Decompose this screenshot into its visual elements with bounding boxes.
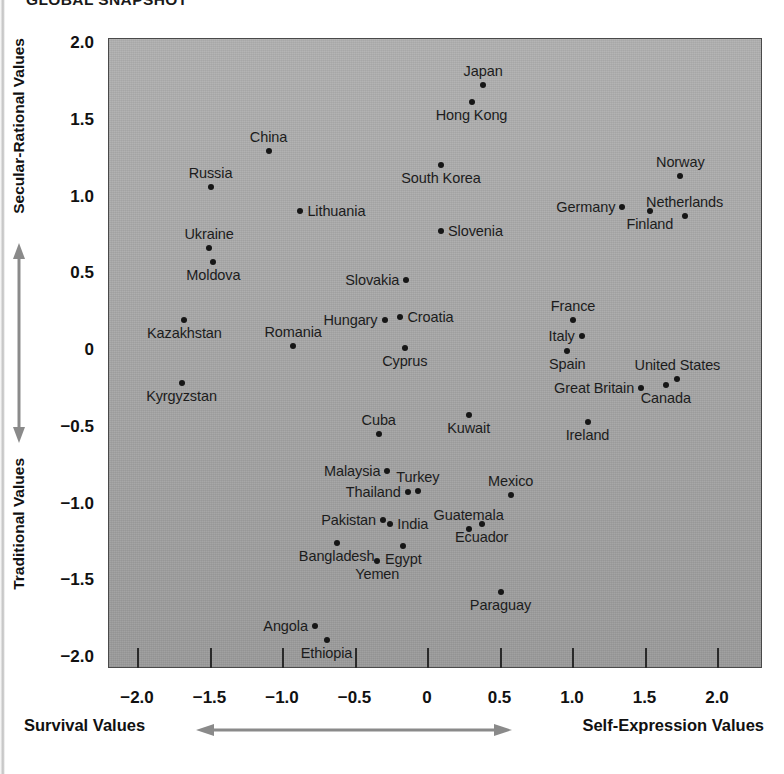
data-point[interactable] xyxy=(382,317,388,323)
data-point[interactable] xyxy=(181,317,187,323)
data-point[interactable] xyxy=(638,385,644,391)
data-point[interactable] xyxy=(334,540,340,546)
x-tick-mark xyxy=(282,648,284,668)
data-point-label: Guatemala xyxy=(434,507,504,523)
y-tick-label: 1.5 xyxy=(48,110,94,130)
data-point[interactable] xyxy=(579,333,585,339)
x-tick-mark xyxy=(572,648,574,668)
data-point[interactable] xyxy=(438,228,444,234)
x-tick-label: 1.0 xyxy=(560,688,584,708)
data-point-label: South Korea xyxy=(401,170,481,186)
data-point-label: Cyprus xyxy=(382,353,427,369)
data-point-label: Kazakhstan xyxy=(147,325,222,341)
data-point[interactable] xyxy=(438,162,444,168)
data-point[interactable] xyxy=(677,173,683,179)
data-point[interactable] xyxy=(570,317,576,323)
data-point-label: Ukraine xyxy=(184,226,233,242)
data-point[interactable] xyxy=(324,637,330,643)
data-point-label: Finland xyxy=(626,216,673,232)
data-point[interactable] xyxy=(374,558,380,564)
data-point[interactable] xyxy=(647,208,653,214)
x-tick-label: 0.5 xyxy=(488,688,512,708)
data-point[interactable] xyxy=(290,343,296,349)
data-point[interactable] xyxy=(400,543,406,549)
data-point-label: Moldova xyxy=(186,267,240,283)
x-axis-left-label: Survival Values xyxy=(24,716,145,735)
data-point-label: Bangladesh xyxy=(299,548,375,564)
data-point[interactable] xyxy=(498,589,504,595)
data-point-label: Germany xyxy=(556,199,615,215)
data-point-label: Great Britain xyxy=(554,380,634,396)
data-point[interactable] xyxy=(564,348,570,354)
data-point-label: Spain xyxy=(549,356,586,372)
data-point[interactable] xyxy=(210,259,216,265)
data-point-label: Kuwait xyxy=(447,420,490,436)
data-point-label: Kyrgyzstan xyxy=(146,388,217,404)
data-point-label: United States xyxy=(635,357,721,373)
data-point[interactable] xyxy=(674,376,680,382)
data-point[interactable] xyxy=(480,82,486,88)
double-headed-horizontal-arrow-icon xyxy=(196,722,512,738)
y-axis-top-label: Secular-Rational Values xyxy=(10,38,28,214)
data-point-label: Ecuador xyxy=(455,529,508,545)
data-point[interactable] xyxy=(384,468,390,474)
y-tick-label: 0.5 xyxy=(48,263,94,283)
data-point-label: Russia xyxy=(189,165,233,181)
data-point[interactable] xyxy=(312,623,318,629)
data-point[interactable] xyxy=(376,431,382,437)
data-point-label: Mexico xyxy=(488,473,533,489)
x-tick-label: −1.0 xyxy=(265,688,299,708)
x-tick-label: 0 xyxy=(422,688,431,708)
data-point-label: Slovakia xyxy=(345,272,399,288)
data-point[interactable] xyxy=(508,492,514,498)
x-tick-label: 1.5 xyxy=(633,688,657,708)
data-point[interactable] xyxy=(663,382,669,388)
data-point[interactable] xyxy=(415,488,421,494)
data-point[interactable] xyxy=(682,213,688,219)
y-tick-label: −1.0 xyxy=(48,494,94,514)
data-point[interactable] xyxy=(380,517,386,523)
data-point[interactable] xyxy=(387,521,393,527)
data-point[interactable] xyxy=(585,419,591,425)
data-point-label: India xyxy=(397,516,428,532)
y-axis-bottom-label: Traditional Values xyxy=(10,458,28,590)
y-tick-label: −0.5 xyxy=(48,417,94,437)
data-point[interactable] xyxy=(206,245,212,251)
data-point[interactable] xyxy=(208,184,214,190)
data-point-label: Netherlands xyxy=(646,194,723,210)
data-point[interactable] xyxy=(397,314,403,320)
data-point-label: Thailand xyxy=(346,484,401,500)
data-point-label: Italy xyxy=(549,328,575,344)
x-tick-mark xyxy=(717,648,719,668)
data-point[interactable] xyxy=(266,148,272,154)
data-point-label: Pakistan xyxy=(321,512,376,528)
data-point-label: Egypt xyxy=(385,551,422,567)
y-tick-label: 0 xyxy=(48,340,94,360)
data-point[interactable] xyxy=(479,521,485,527)
data-point-label: Norway xyxy=(656,154,705,170)
data-point[interactable] xyxy=(469,99,475,105)
data-point-label: Angola xyxy=(263,618,308,634)
x-tick-mark xyxy=(210,648,212,668)
x-tick-label: −2.0 xyxy=(120,688,154,708)
y-tick-label: −1.5 xyxy=(48,570,94,590)
data-point-label: France xyxy=(551,298,596,314)
data-point[interactable] xyxy=(179,380,185,386)
data-point-label: Croatia xyxy=(407,309,453,325)
x-tick-mark xyxy=(355,648,357,668)
page-title: GLOBAL SNAPSHOT xyxy=(26,0,188,9)
data-point[interactable] xyxy=(402,345,408,351)
x-tick-mark xyxy=(427,648,429,668)
data-point-label: China xyxy=(250,129,287,145)
data-point-label: Hungary xyxy=(323,312,377,328)
data-point[interactable] xyxy=(297,208,303,214)
x-axis-label-group: Survival Values Self-Expression Values xyxy=(0,714,784,754)
x-tick-label: 2.0 xyxy=(705,688,729,708)
data-point-label: Slovenia xyxy=(448,223,503,239)
data-point[interactable] xyxy=(619,204,625,210)
y-axis-label-group: Secular-Rational Values Traditional Valu… xyxy=(4,38,34,668)
data-point[interactable] xyxy=(466,412,472,418)
x-tick-mark xyxy=(500,648,502,668)
data-point[interactable] xyxy=(405,489,411,495)
data-point[interactable] xyxy=(403,277,409,283)
